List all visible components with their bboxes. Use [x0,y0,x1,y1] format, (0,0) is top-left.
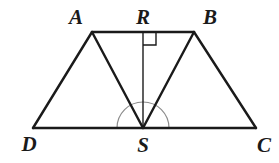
geometry-canvas: A R B D S C [0,0,279,163]
vertex-label-R: R [135,5,150,29]
segment-BC [194,32,256,128]
vertex-label-S: S [137,133,149,157]
vertex-label-C: C [257,133,272,157]
vertex-label-D: D [20,132,36,156]
segment-AD [33,32,92,128]
geometry-diagram: A R B D S C [0,0,279,163]
right-angle-mark-at-R [143,32,156,45]
segment-BS [143,32,194,128]
vertex-label-A: A [67,5,83,29]
vertex-label-B: B [202,5,217,29]
segment-AS [92,32,143,128]
